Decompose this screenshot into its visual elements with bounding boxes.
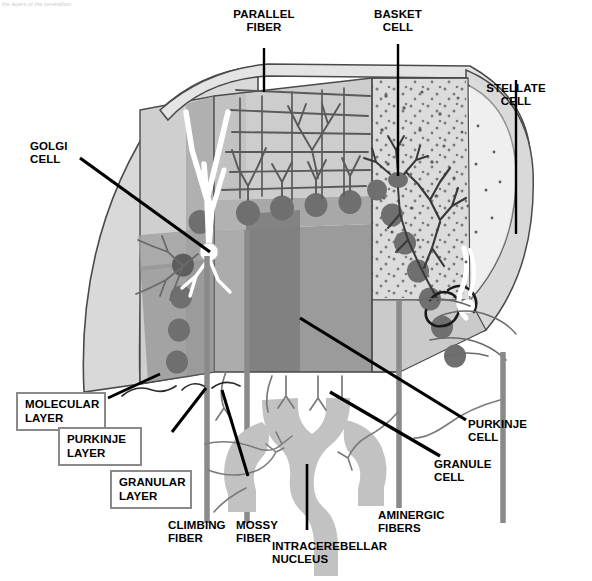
label-stellate-cell: STELLATE CELL — [474, 82, 558, 108]
bracket-granular — [212, 382, 240, 388]
leader-purkinje-layer — [172, 388, 206, 432]
label-intracerebellar-nucleus: INTRACEREBELLAR NUCLEUS — [272, 540, 412, 566]
boxed-label-granular-layer: GRANULAR LAYER — [110, 470, 192, 509]
diagram-stage: the layers of the cerebellum — [0, 0, 592, 581]
boxed-label-purkinje-layer: PURKINJE LAYER — [58, 427, 142, 466]
bracket-purkinje — [182, 384, 204, 390]
boxed-label-molecular-layer: MOLECULAR LAYER — [16, 392, 106, 431]
label-basket-cell: BASKET CELL — [352, 8, 444, 34]
label-granule-cell: GRANULE CELL — [434, 458, 526, 484]
label-golgi-cell: GOLGI CELL — [30, 140, 108, 166]
label-parallel-fiber: PARALLEL FIBER — [216, 8, 312, 34]
inner-fold-column — [214, 94, 246, 372]
label-aminergic-fibers: AMINERGIC FIBERS — [378, 509, 478, 535]
label-purkinje-cell: PURKINJE CELL — [468, 418, 560, 444]
granular-layer-core-dark — [246, 210, 300, 372]
